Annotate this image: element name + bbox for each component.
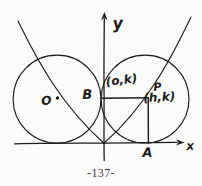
point-p-coordinates-label: (h,k) <box>143 90 176 104</box>
y-axis-label: y <box>112 15 124 32</box>
notebook-page: y x O B (o,k) P (h,k) A -137- <box>0 0 202 186</box>
left-circle-center-dot <box>56 96 59 99</box>
x-axis-label: x <box>186 140 194 152</box>
left-circle-center-label: O <box>41 94 52 107</box>
page-number: -137- <box>0 166 202 181</box>
point-b-label: B <box>82 88 92 101</box>
point-b-coordinates-label: (o,k) <box>105 72 138 88</box>
point-a-label: A <box>142 146 153 159</box>
segment-b-to-p <box>103 98 149 99</box>
